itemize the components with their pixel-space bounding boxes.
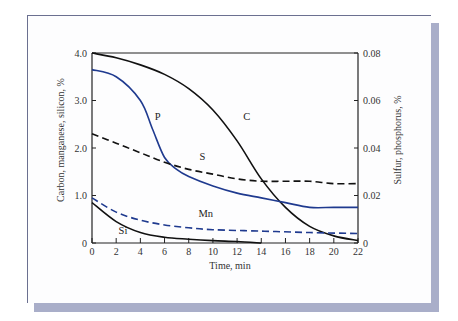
y-tick-label-right: 0.08 bbox=[363, 48, 381, 59]
x-tick-label: 4 bbox=[138, 246, 143, 257]
y-tick-label-right: 0.04 bbox=[363, 143, 381, 154]
y-tick-label-left: 3.0 bbox=[75, 95, 88, 106]
curve-c bbox=[92, 53, 358, 241]
x-tick-label: 22 bbox=[353, 246, 363, 257]
y-tick-label-right: 0.02 bbox=[363, 190, 381, 201]
x-tick-label: 8 bbox=[186, 246, 191, 257]
y-tick-label-left: 0 bbox=[82, 238, 87, 249]
y-tick-label-right: 0.06 bbox=[363, 95, 381, 106]
y-axis-title-right: Sulfur, phosphorus, % bbox=[392, 95, 403, 184]
curve-s bbox=[92, 134, 358, 184]
curve-mn bbox=[92, 198, 358, 234]
x-tick-label: 6 bbox=[162, 246, 167, 257]
chart-axes: 024681012141618202201.02.03.04.000.020.0… bbox=[55, 48, 403, 272]
curve-label-p: P bbox=[155, 111, 161, 122]
x-tick-label: 0 bbox=[90, 246, 95, 257]
chart-curves bbox=[92, 53, 358, 243]
curve-label-mn: Mn bbox=[198, 208, 213, 219]
curve-p bbox=[92, 70, 358, 208]
x-tick-label: 18 bbox=[305, 246, 315, 257]
line-chart: 024681012141618202201.02.03.04.000.020.0… bbox=[0, 0, 458, 321]
y-tick-label-left: 4.0 bbox=[75, 48, 88, 59]
x-axis-title: Time, min bbox=[209, 260, 250, 271]
x-tick-label: 12 bbox=[232, 246, 242, 257]
y-tick-label-left: 2.0 bbox=[75, 143, 88, 154]
y-tick-label-right: 0 bbox=[363, 238, 368, 249]
curve-label-si: Si bbox=[119, 225, 128, 236]
x-tick-label: 14 bbox=[256, 246, 266, 257]
x-tick-label: 2 bbox=[114, 246, 119, 257]
chart-labels: CPSMnSi bbox=[119, 111, 251, 236]
curve-label-s: S bbox=[200, 151, 206, 162]
x-tick-label: 16 bbox=[280, 246, 290, 257]
y-tick-label-left: 1.0 bbox=[75, 190, 88, 201]
x-tick-label: 10 bbox=[208, 246, 218, 257]
y-axis-title-left: Carbon, manganese, silicon, % bbox=[55, 78, 66, 202]
x-tick-label: 20 bbox=[329, 246, 339, 257]
curve-si bbox=[92, 203, 261, 243]
curve-label-c: C bbox=[243, 111, 250, 122]
